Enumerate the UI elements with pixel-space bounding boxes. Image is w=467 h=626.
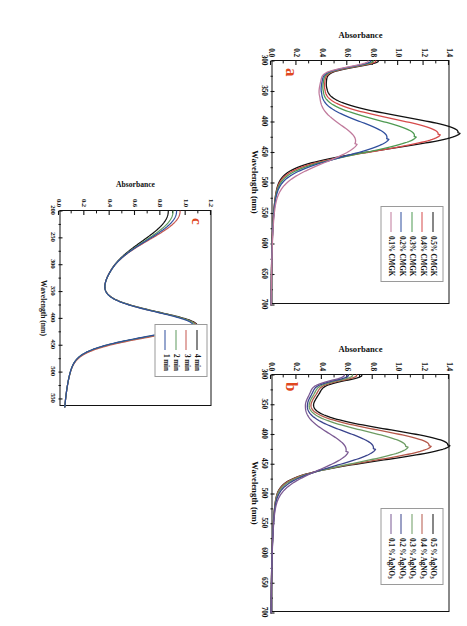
x-tick-label: 350 bbox=[259, 399, 268, 410]
y-tick-label: 0.6 bbox=[343, 362, 352, 371]
y-tick-label: 0.4 bbox=[106, 199, 113, 207]
panel-a-legend: 0.5% CMGK0.4% CMGK0.3% CMGK0.2% CMGK0.1%… bbox=[380, 206, 443, 282]
series-line bbox=[64, 211, 194, 407]
legend-item[interactable]: 0.4% CMGK bbox=[417, 212, 427, 276]
panel-b-xaxis-title: Wavelength (nm) bbox=[249, 461, 259, 524]
panel-c-yaxis-title: Absorbance bbox=[116, 180, 155, 189]
legend-label: 4 min bbox=[193, 354, 201, 371]
figure-stage: a 0.5% CMGK0.4% CMGK0.3% CMGK0.2% CMGK0.… bbox=[0, 0, 467, 626]
y-tick-label: 0.6 bbox=[132, 199, 139, 207]
panel-c: c 4 min3 min2 min1 min 20025030035040045… bbox=[13, 166, 219, 426]
series-line bbox=[64, 211, 196, 407]
legend-item[interactable]: 4 min bbox=[192, 330, 202, 371]
x-tick-label: 550 bbox=[259, 518, 268, 529]
x-tick-label: 450 bbox=[259, 146, 268, 157]
x-tick-label: 250 bbox=[49, 232, 56, 242]
x-tick-label: 400 bbox=[259, 428, 268, 439]
legend-item[interactable]: 1 min bbox=[160, 330, 170, 371]
legend-label: 0.2 % AgNO3 bbox=[397, 538, 405, 579]
legend-color-swatch bbox=[165, 330, 166, 350]
y-tick-label: 0.4 bbox=[317, 362, 326, 371]
x-tick-label: 200 bbox=[49, 205, 56, 215]
legend-color-swatch bbox=[432, 212, 433, 232]
panel-a: a 0.5% CMGK0.4% CMGK0.3% CMGK0.2% CMGK0.… bbox=[231, 16, 459, 316]
panel-b-letter: b bbox=[282, 382, 299, 391]
x-tick-label: 500 bbox=[49, 366, 56, 376]
panel-c-xaxis-title: Wavelength (nm) bbox=[38, 280, 47, 336]
y-tick-label: 1.0 bbox=[182, 199, 189, 207]
legend-label: 0.3% CMGK bbox=[408, 236, 416, 276]
legend-item[interactable]: 0.3% CMGK bbox=[407, 212, 417, 276]
legend-color-swatch bbox=[432, 514, 433, 534]
legend-color-swatch bbox=[411, 212, 412, 232]
y-tick-label: 1.4 bbox=[445, 362, 454, 371]
y-tick-label: 0.8 bbox=[368, 48, 377, 57]
series-line bbox=[64, 211, 192, 407]
legend-color-swatch bbox=[422, 514, 423, 534]
legend-color-swatch bbox=[411, 514, 412, 534]
x-tick-label: 400 bbox=[259, 116, 268, 127]
legend-color-swatch bbox=[196, 330, 197, 350]
legend-label: 3 min bbox=[182, 354, 190, 371]
x-tick-label: 700 bbox=[259, 607, 268, 618]
y-tick-label: 1.0 bbox=[394, 48, 403, 57]
panel-c-legend: 4 min3 min2 min1 min bbox=[155, 324, 208, 377]
legend-label: 0.2% CMGK bbox=[397, 236, 405, 276]
legend-color-swatch bbox=[422, 212, 423, 232]
legend-item[interactable]: 0.5 % AgNO3 bbox=[428, 514, 438, 579]
x-tick-label: 700 bbox=[259, 299, 268, 310]
panel-c-curves bbox=[58, 211, 210, 407]
y-tick-label: 0.6 bbox=[343, 48, 352, 57]
series-line bbox=[271, 375, 348, 613]
legend-item[interactable]: 0.1 % AgNO3 bbox=[386, 514, 396, 579]
x-tick-label: 300 bbox=[49, 259, 56, 269]
legend-item[interactable]: 3 min bbox=[181, 330, 191, 371]
legend-item[interactable]: 0.4 % AgNO3 bbox=[417, 514, 427, 579]
x-tick-label: 600 bbox=[259, 238, 268, 249]
x-tick-label: 650 bbox=[259, 268, 268, 279]
legend-color-swatch bbox=[175, 330, 176, 350]
x-tick-label: 500 bbox=[259, 488, 268, 499]
panel-a-xaxis-title: Wavelength (nm) bbox=[249, 150, 259, 213]
panel-a-letter: a bbox=[282, 68, 299, 77]
legend-color-swatch bbox=[390, 514, 391, 534]
x-tick-label: 450 bbox=[49, 339, 56, 349]
series-line bbox=[271, 61, 368, 305]
series-line bbox=[64, 211, 196, 407]
legend-item[interactable]: 0.1% CMGK bbox=[386, 212, 396, 276]
legend-color-swatch bbox=[401, 514, 402, 534]
x-tick-label: 500 bbox=[259, 177, 268, 188]
y-tick-label: 1.0 bbox=[394, 362, 403, 371]
legend-label: 2 min bbox=[172, 354, 180, 371]
y-tick-label: 0.0 bbox=[267, 48, 276, 57]
legend-label: 0.4 % AgNO3 bbox=[418, 538, 426, 579]
legend-label: 0.1% CMGK bbox=[387, 236, 395, 276]
y-tick-label: 0.0 bbox=[267, 362, 276, 371]
y-tick-label: 0.2 bbox=[292, 48, 301, 57]
legend-item[interactable]: 0.5% CMGK bbox=[428, 212, 438, 276]
x-tick-label: 450 bbox=[259, 458, 268, 469]
x-tick-label: 650 bbox=[259, 577, 268, 588]
legend-item[interactable]: 0.2 % AgNO3 bbox=[396, 514, 406, 579]
y-tick-label: 0.4 bbox=[317, 48, 326, 57]
legend-color-swatch bbox=[186, 330, 187, 350]
panel-b-legend: 0.5 % AgNO30.4 % AgNO30.3 % AgNO30.2 % A… bbox=[380, 508, 443, 585]
series-line bbox=[271, 375, 375, 613]
x-tick-label: 600 bbox=[259, 547, 268, 558]
legend-item[interactable]: 2 min bbox=[171, 330, 181, 371]
legend-item[interactable]: 0.3 % AgNO3 bbox=[407, 514, 417, 579]
legend-color-swatch bbox=[390, 212, 391, 232]
legend-label: 1 min bbox=[161, 354, 169, 371]
legend-label: 0.5% CMGK bbox=[429, 236, 437, 276]
y-tick-label: 0.8 bbox=[157, 199, 164, 207]
legend-label: 0.5 % AgNO3 bbox=[429, 538, 437, 579]
x-tick-label: 400 bbox=[49, 313, 56, 323]
legend-item[interactable]: 0.2% CMGK bbox=[396, 212, 406, 276]
legend-label: 0.1 % AgNO3 bbox=[387, 538, 395, 579]
legend-label: 0.4% CMGK bbox=[418, 236, 426, 276]
y-tick-label: 0.8 bbox=[368, 362, 377, 371]
series-line bbox=[271, 61, 389, 305]
panel-b-yaxis-title: Absorbance bbox=[338, 344, 382, 354]
legend-color-swatch bbox=[401, 212, 402, 232]
x-tick-label: 550 bbox=[259, 207, 268, 218]
